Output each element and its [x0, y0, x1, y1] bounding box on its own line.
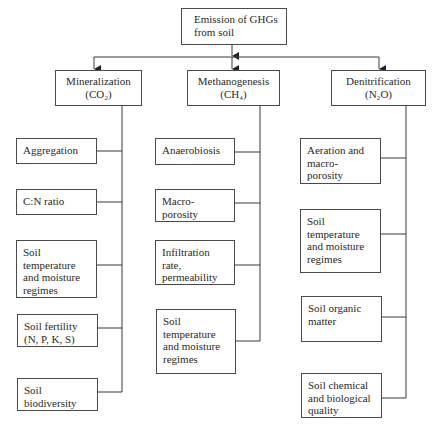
factor-text: Soil	[307, 215, 380, 228]
factor-text: Macro-	[162, 195, 234, 208]
factor-text: temperature	[163, 328, 235, 341]
factor-text: quality	[308, 404, 381, 417]
factor-text: and biological	[308, 392, 381, 405]
process-denitrification: Denitrification (N₂O)	[331, 70, 426, 106]
factor-text: C:N ratio	[23, 195, 96, 208]
factor-anaerobiosis: Anaerobiosis	[155, 138, 235, 165]
factor-text: macro-	[307, 157, 380, 170]
factor-text: porosity	[307, 169, 380, 182]
factor-text: temperature	[23, 259, 96, 272]
factor-text: regimes	[163, 353, 235, 366]
root-node: Emission of GHGs from soil	[181, 8, 287, 45]
factor-soil-temperature-moisture: Soil temperature and moisture regimes	[156, 309, 236, 374]
factor-text: Soil chemical	[308, 379, 381, 392]
process-name: Methanogenesis	[188, 75, 279, 88]
factor-text: regimes	[23, 284, 96, 297]
factor-text: and moisture	[23, 271, 96, 284]
process-mineralization: Mineralization (CO₂)	[55, 70, 142, 106]
factor-text: biodiversity	[24, 397, 97, 410]
factor-text: Anaerobiosis	[162, 144, 234, 157]
factor-text: Aeration and	[307, 144, 380, 157]
factor-soil-biodiversity: Soil biodiversity	[17, 378, 98, 411]
factor-text: permeability	[162, 271, 234, 284]
factor-cn-ratio: C:N ratio	[16, 189, 97, 215]
process-gas: (CH₄)	[188, 88, 279, 101]
factor-aeration-macroporosity: Aeration and macro- porosity	[300, 138, 381, 184]
factor-text: regimes	[307, 253, 380, 266]
factor-text: Soil fertility	[24, 320, 97, 333]
factor-text: Soil organic	[308, 302, 381, 315]
factor-aggregation: Aggregation	[16, 138, 97, 164]
factor-soil-fertility: Soil fertility (N, P, K, S)	[17, 314, 98, 347]
factor-text: Infiltration	[162, 246, 234, 259]
root-node-line2: from soil	[194, 26, 286, 39]
factor-macroporosity: Macro- porosity	[155, 189, 235, 222]
factor-text: porosity	[162, 208, 234, 221]
factor-soil-temperature-moisture: Soil temperature and moisture regimes	[16, 240, 97, 298]
factor-soil-chemical-biological-quality: Soil chemical and biological quality	[301, 373, 382, 418]
process-name: Mineralization	[56, 75, 141, 88]
factor-text: rate,	[162, 259, 234, 272]
factor-text: Soil	[23, 246, 96, 259]
factor-text: Aggregation	[23, 144, 96, 157]
factor-text: Soil	[163, 315, 235, 328]
factor-text: and moisture	[163, 340, 235, 353]
factor-text: matter	[308, 315, 381, 328]
factor-text: and moisture	[307, 240, 380, 253]
factor-infiltration-permeability: Infiltration rate, permeability	[155, 240, 235, 285]
factor-text: temperature	[307, 228, 380, 241]
process-gas: (N₂O)	[332, 88, 425, 101]
process-methanogenesis: Methanogenesis (CH₄)	[187, 70, 280, 106]
factor-soil-temperature-moisture: Soil temperature and moisture regimes	[300, 209, 381, 273]
root-node-line1: Emission of GHGs	[194, 13, 286, 26]
process-gas: (CO₂)	[56, 88, 141, 101]
process-name: Denitrification	[332, 75, 425, 88]
factor-text: (N, P, K, S)	[24, 333, 97, 346]
factor-soil-organic-matter: Soil organic matter	[301, 296, 382, 342]
factor-text: Soil	[24, 384, 97, 397]
